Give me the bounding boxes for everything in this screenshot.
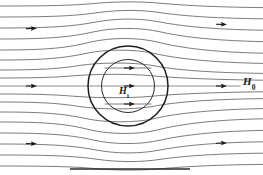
field-line xyxy=(0,2,263,8)
field-line xyxy=(0,10,263,18)
field-line xyxy=(0,109,263,122)
field-line xyxy=(0,92,263,98)
field-line xyxy=(0,130,263,143)
field-line xyxy=(0,50,263,63)
field-line xyxy=(0,28,263,41)
field-line-diagram xyxy=(0,0,263,175)
physics-figure-magnetic-sphere: H0 Hi xyxy=(0,0,263,175)
label-internal-field-subscript: i xyxy=(127,92,129,99)
field-line xyxy=(0,74,263,80)
field-line xyxy=(0,153,263,161)
label-external-field-h0: H0 xyxy=(243,76,255,90)
label-internal-field-hi: Hi xyxy=(119,86,129,99)
label-external-field-symbol: H xyxy=(243,75,252,87)
label-external-field-subscript: 0 xyxy=(252,83,256,92)
label-internal-field-symbol: H xyxy=(119,85,127,96)
